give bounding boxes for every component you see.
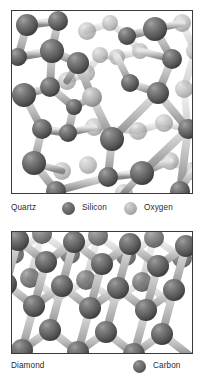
oxygen-legend-label: Oxygen [144,200,173,216]
crystal-structure-figure: Quartz Silicon Oxygen [0,0,202,379]
quartz-structure-panel [11,10,193,194]
diamond-structure-panel [11,231,193,354]
diamond-molecular-model [12,232,192,353]
silicon-legend-label: Silicon [82,200,107,216]
carbon-legend-label: Carbon [153,358,180,374]
carbon-sphere-swatch-icon [133,360,146,373]
quartz-caption: Quartz [11,200,36,216]
diamond-caption: Diamond [11,358,44,374]
silicon-sphere-swatch-icon [62,202,75,215]
quartz-legend: Quartz Silicon Oxygen [11,200,191,216]
diamond-legend: Diamond Carbon [11,358,191,374]
oxygen-sphere-swatch-icon [124,202,137,215]
quartz-molecular-model [12,11,192,193]
